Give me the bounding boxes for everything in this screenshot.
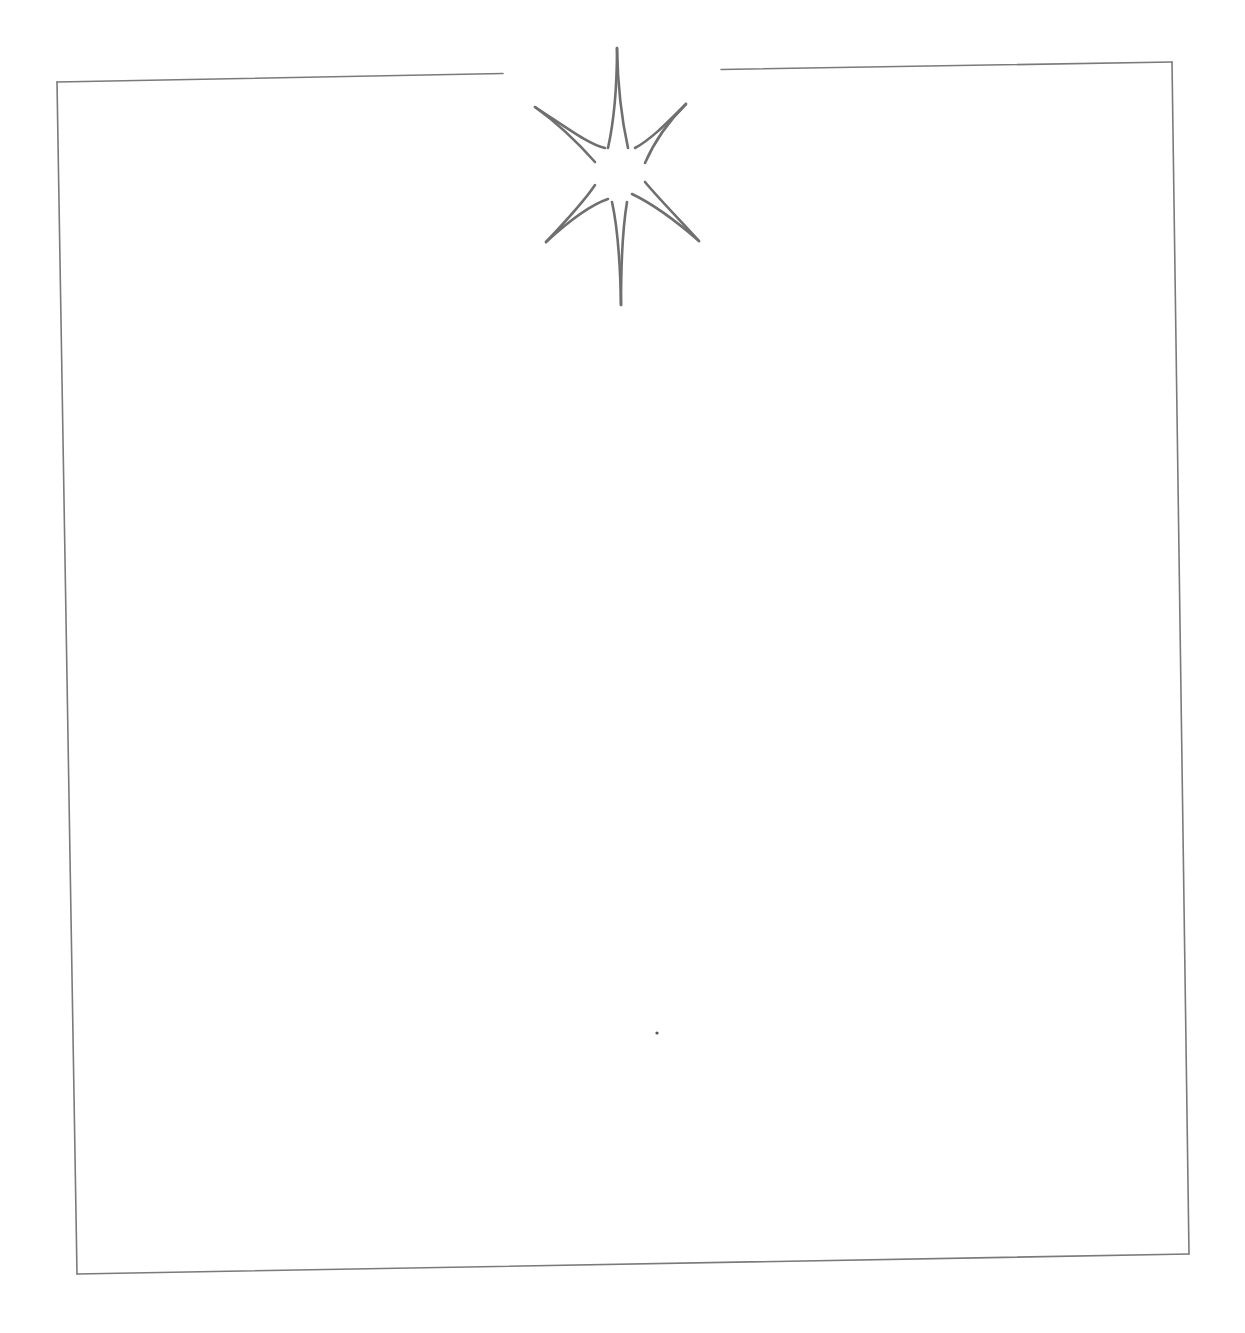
frame-left-edge [57,82,77,1274]
frame-right-edge [1172,62,1189,1254]
speck-mark [655,1031,658,1034]
frame-top-right-segment [721,62,1172,70]
frame-bottom-edge [77,1254,1189,1274]
frame-top-left-segment [57,74,503,83]
page-canvas [0,0,1245,1333]
sparkle-star-icon [535,48,699,305]
